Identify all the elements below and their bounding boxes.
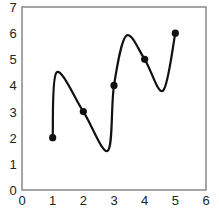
data-point-marker (110, 82, 117, 89)
data-point-marker (80, 108, 87, 115)
y-tick-label: 2 (9, 131, 16, 146)
x-tick-label: 2 (80, 193, 87, 208)
data-point-marker (49, 134, 56, 141)
data-point-marker (172, 30, 179, 37)
x-tick-label: 1 (49, 193, 56, 208)
x-tick-label: 0 (18, 193, 25, 208)
y-tick-label: 4 (9, 78, 16, 93)
y-tick-label: 7 (9, 0, 16, 15)
smooth-curve (53, 33, 176, 151)
data-point-marker (141, 56, 148, 63)
x-tick-label: 3 (110, 193, 117, 208)
y-tick-label: 3 (9, 105, 16, 120)
y-tick-label: 5 (9, 52, 16, 67)
y-axis-tick-labels: 01234567 (9, 0, 16, 198)
y-tick-label: 0 (9, 183, 16, 198)
x-tick-label: 5 (172, 193, 179, 208)
x-tick-label: 6 (202, 193, 209, 208)
line-chart: 01234567 0123456 (0, 0, 219, 210)
y-tick-label: 1 (9, 157, 16, 172)
x-axis-tick-labels: 0123456 (18, 193, 209, 208)
y-tick-label: 6 (9, 26, 16, 41)
x-tick-label: 4 (141, 193, 148, 208)
